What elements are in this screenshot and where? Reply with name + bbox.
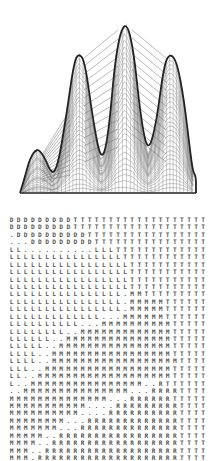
grid-cell: T <box>186 238 193 245</box>
grid-cell: D <box>8 223 15 230</box>
grid-cell: L <box>8 335 15 342</box>
grid-cell: L <box>72 298 79 305</box>
grid-cell: L <box>72 320 79 327</box>
grid-cell: T <box>193 447 200 454</box>
grid-cell: T <box>186 342 193 349</box>
grid-cell: M <box>65 387 72 394</box>
grid-cell: D <box>8 216 15 223</box>
grid-cell: T <box>200 216 207 223</box>
grid-cell: L <box>107 246 114 253</box>
grid-cell: T <box>193 216 200 223</box>
grid-cell: . <box>107 402 114 409</box>
grid-cell: L <box>86 253 93 260</box>
grid-cell: M <box>65 395 72 402</box>
grid-cell: T <box>200 298 207 305</box>
grid-cell: T <box>193 387 200 394</box>
grid-cell: T <box>193 409 200 416</box>
grid-cell: L <box>15 350 22 357</box>
grid-cell: L <box>29 350 36 357</box>
grid-cell: . <box>44 357 51 364</box>
grid-cell: L <box>65 261 72 268</box>
grid-cell: M <box>29 402 36 409</box>
grid-cell: T <box>200 223 207 230</box>
grid-cell: M <box>157 372 164 379</box>
grid-cell: M <box>44 402 51 409</box>
grid-cell: M <box>122 350 129 357</box>
grid-cell: T <box>164 380 171 387</box>
grid-cell: L <box>58 283 65 290</box>
grid-row: .DDDDDDDDDDTTTTTTTTTTTTTTTTT <box>8 231 213 238</box>
grid-cell: T <box>100 238 107 245</box>
grid-cell: L <box>36 290 43 297</box>
grid-cell: . <box>44 350 51 357</box>
grid-cell: R <box>143 424 150 431</box>
grid-cell: M <box>58 365 65 372</box>
grid-row: LLLLLLLLLLLLLLLL.MMMMMTTTTTT <box>8 305 213 312</box>
grid-cell: M <box>143 350 150 357</box>
grid-cell: M <box>129 365 136 372</box>
grid-cell: T <box>164 276 171 283</box>
grid-cell: R <box>164 447 171 454</box>
grid-cell: M <box>8 409 15 416</box>
grid-cell: T <box>115 216 122 223</box>
grid-cell: M <box>29 395 36 402</box>
grid-cell: L <box>72 283 79 290</box>
grid-cell: T <box>186 253 193 260</box>
grid-cell: L <box>8 380 15 387</box>
grid-cell: L <box>29 261 36 268</box>
grid-cell: L <box>15 342 22 349</box>
grid-cell: M <box>79 328 86 335</box>
grid-cell: D <box>79 238 86 245</box>
grid-cell: L <box>79 305 86 312</box>
grid-cell: T <box>186 320 193 327</box>
grid-cell: R <box>44 454 51 461</box>
grid-cell: L <box>15 372 22 379</box>
grid-cell: L <box>51 305 58 312</box>
grid-cell: M <box>86 357 93 364</box>
grid-cell: M <box>86 380 93 387</box>
grid-cell: D <box>36 231 43 238</box>
grid-cell: D <box>22 216 29 223</box>
grid-cell: T <box>178 387 185 394</box>
grid-cell: M <box>136 290 143 297</box>
grid-cell: R <box>72 439 79 446</box>
grid-cell: R <box>86 447 93 454</box>
grid-cell: T <box>143 238 150 245</box>
grid-cell: L <box>15 261 22 268</box>
grid-cell: L <box>22 328 29 335</box>
grid-cell: . <box>8 238 15 245</box>
grid-cell: T <box>150 261 157 268</box>
grid-cell: L <box>115 298 122 305</box>
grid-cell: M <box>29 409 36 416</box>
grid-cell: M <box>107 380 114 387</box>
grid-cell: L <box>93 305 100 312</box>
mesh-wireframe <box>21 24 195 193</box>
grid-cell: T <box>150 276 157 283</box>
grid-cell: M <box>72 335 79 342</box>
grid-cell: T <box>200 357 207 364</box>
grid-cell: R <box>136 447 143 454</box>
grid-cell: T <box>86 231 93 238</box>
grid-cell: T <box>186 357 193 364</box>
grid-cell: L <box>44 320 51 327</box>
grid-cell: R <box>157 447 164 454</box>
grid-cell: L <box>22 253 29 260</box>
grid-cell: . <box>36 357 43 364</box>
grid-cell: M <box>107 328 114 335</box>
grid-cell: T <box>171 283 178 290</box>
grid-cell: M <box>72 387 79 394</box>
grid-cell: L <box>72 313 79 320</box>
grid-cell: M <box>122 335 129 342</box>
grid-cell: T <box>164 216 171 223</box>
grid-cell: T <box>122 253 129 260</box>
grid-cell: M <box>51 395 58 402</box>
grid-cell: . <box>44 432 51 439</box>
grid-cell: . <box>58 335 65 342</box>
grid-cell: R <box>122 402 129 409</box>
grid-row: MMMMM..RRRRRRRRRRRRRRRRRTTTT <box>8 432 213 439</box>
grid-cell: M <box>107 335 114 342</box>
grid-cell: R <box>100 432 107 439</box>
grid-cell: R <box>164 409 171 416</box>
grid-cell: L <box>79 313 86 320</box>
grid-cell: T <box>157 283 164 290</box>
